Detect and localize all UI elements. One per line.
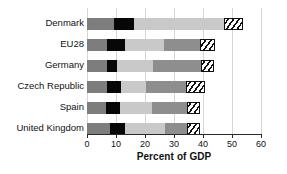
x-tick-label-20: 20 [133,139,157,150]
gridline-60 [261,8,262,134]
bar-segment-light-gray [134,18,224,30]
x-tick-40 [203,134,204,138]
bar-segment-black [106,102,120,114]
bar-segment-medium-gray [164,39,200,51]
bar-segment-light-gray [117,60,153,72]
x-tick-60 [261,134,262,138]
bar-segment-medium-gray [146,81,187,93]
x-tick-label-40: 40 [191,139,215,150]
bar-segment-black [114,18,134,30]
x-tick-30 [174,134,175,138]
category-axis: Denmark EU28 Germany Czech Republic Spai… [0,8,84,134]
bar-segment-hatched [200,39,215,51]
category-label-spain: Spain [0,102,84,112]
bar-segment-dark-gray [87,102,106,114]
x-axis-title: Percent of GDP [87,151,261,162]
category-label-germany: Germany [0,60,84,70]
bar-segment-medium-gray [152,102,187,114]
stacked-bar-chart: Denmark EU28 Germany Czech Republic Spai… [0,0,287,174]
x-tick-label-50: 50 [220,139,244,150]
x-tick-label-30: 30 [162,139,186,150]
x-tick-label-10: 10 [104,139,128,150]
x-tick-20 [145,134,146,138]
bar-segment-black [107,81,121,93]
bar-segment-dark-gray [87,60,107,72]
bar-segment-hatched [187,102,200,114]
bar-segment-light-gray [125,39,164,51]
category-label-united-kingdom: United Kingdom [0,123,84,133]
bar-segment-medium-gray [153,60,201,72]
bar-segment-hatched [224,18,243,30]
category-label-denmark: Denmark [0,18,84,28]
bar-segment-light-gray [120,102,152,114]
bar-segment-black [107,39,124,51]
x-tick-50 [232,134,233,138]
x-tick-label-0: 0 [75,139,99,150]
bar-segment-dark-gray [87,18,114,30]
plot-area [87,8,261,134]
bar-segment-black [107,60,117,72]
bar-segment-hatched [201,60,214,72]
x-tick-0 [87,134,88,138]
bar-segment-hatched [186,81,205,93]
category-label-czech-republic: Czech Republic [0,81,84,91]
bar-segment-dark-gray [87,39,107,51]
category-label-eu28: EU28 [0,39,84,49]
x-tick-10 [116,134,117,138]
bar-segment-dark-gray [87,81,107,93]
x-tick-label-60: 60 [249,139,273,150]
bar-segment-light-gray [121,81,146,93]
